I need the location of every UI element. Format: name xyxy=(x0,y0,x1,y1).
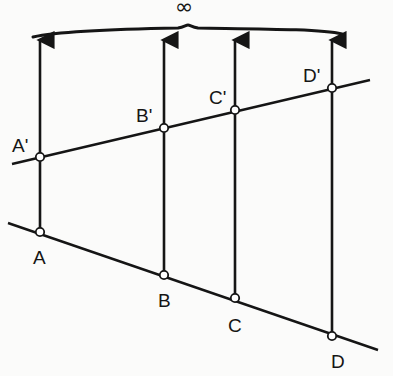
point-d-marker xyxy=(328,332,336,340)
point-b2-label: B' xyxy=(136,105,152,126)
projection-rays xyxy=(40,40,332,336)
brace xyxy=(33,25,342,37)
point-d-label: D xyxy=(331,351,345,372)
point-d2-label: D' xyxy=(303,65,320,86)
infinity-label: ∞ xyxy=(175,0,193,19)
point-b2-marker xyxy=(160,124,168,132)
point-c-label: C xyxy=(228,315,242,336)
parallel-projection-diagram: ∞ ABCDA'B'C'D' xyxy=(0,0,393,376)
point-c2-marker xyxy=(231,106,239,114)
point-a2-label: A' xyxy=(12,135,28,156)
point-a-marker xyxy=(36,228,44,236)
point-c-marker xyxy=(231,294,239,302)
point-a2-marker xyxy=(36,153,44,161)
point-c2-label: C' xyxy=(209,87,226,108)
point-b-label: B xyxy=(158,290,171,311)
labels-layer: ABCDA'B'C'D' xyxy=(12,65,345,372)
point-d2-marker xyxy=(328,84,336,92)
lower-line xyxy=(8,223,378,350)
upper-line xyxy=(12,80,370,164)
point-b-marker xyxy=(160,271,168,279)
point-a-label: A xyxy=(33,247,46,268)
